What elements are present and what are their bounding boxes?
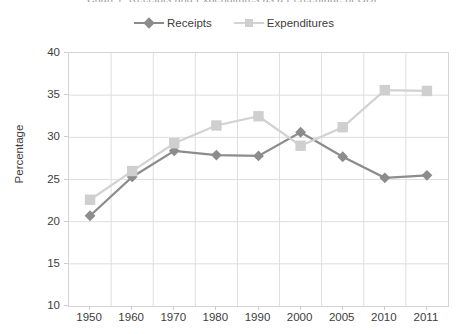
x-tick-label: 1980 xyxy=(192,311,238,323)
x-tick-mark xyxy=(215,306,216,310)
x-tick-mark xyxy=(300,306,301,310)
x-tick-mark xyxy=(173,306,174,310)
x-tick-mark xyxy=(426,306,427,310)
y-tick-label: 25 xyxy=(26,173,60,185)
y-tick-mark xyxy=(64,263,68,264)
x-tick-mark xyxy=(89,306,90,310)
y-tick-mark xyxy=(64,179,68,180)
x-tick-label: 1990 xyxy=(235,311,281,323)
y-tick-label: 40 xyxy=(26,46,60,58)
y-tick-mark xyxy=(64,221,68,222)
x-tick-label: 1950 xyxy=(66,311,112,323)
x-tick-label: 1960 xyxy=(108,311,154,323)
x-tick-label: 2005 xyxy=(319,311,365,323)
axis-labels: 1015202530354019501960197019801990200020… xyxy=(0,0,468,334)
x-tick-label: 2010 xyxy=(361,311,407,323)
y-tick-mark xyxy=(64,94,68,95)
y-tick-label: 10 xyxy=(26,299,60,311)
y-tick-label: 20 xyxy=(26,215,60,227)
x-tick-label: 1970 xyxy=(150,311,196,323)
y-tick-label: 30 xyxy=(26,130,60,142)
y-axis-title: Percentage xyxy=(13,79,25,229)
line-chart: Chart 1: Receipts and Expenditures as a … xyxy=(0,0,468,334)
y-tick-label: 35 xyxy=(26,88,60,100)
x-tick-mark xyxy=(258,306,259,310)
y-tick-mark xyxy=(64,52,68,53)
x-tick-mark xyxy=(384,306,385,310)
y-tick-label: 15 xyxy=(26,257,60,269)
x-tick-label: 2000 xyxy=(277,311,323,323)
y-tick-mark xyxy=(64,136,68,137)
x-tick-mark xyxy=(131,306,132,310)
x-tick-label: 2011 xyxy=(403,311,449,323)
y-tick-mark xyxy=(64,305,68,306)
x-tick-mark xyxy=(342,306,343,310)
